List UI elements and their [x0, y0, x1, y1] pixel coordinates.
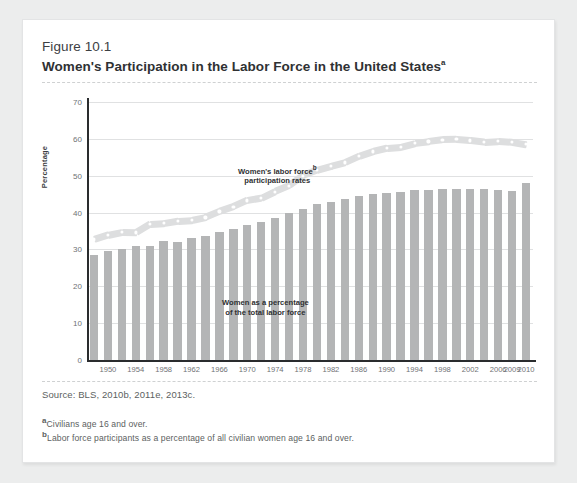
chart-bar: [424, 190, 432, 360]
chart-bar: [466, 189, 474, 360]
chart-bar: [159, 241, 167, 360]
line-series-marker: [524, 142, 527, 145]
annotation-line-row2: participation rates: [244, 176, 310, 185]
annotation-bar-row2: of the total labor force: [225, 308, 305, 317]
y-tick-label: 30: [73, 245, 82, 254]
annotation-bar-row1: Women as a percentage: [222, 298, 309, 307]
chart-bar: [508, 191, 516, 360]
chart-bar: [369, 194, 377, 360]
x-tick-label: 1990: [378, 365, 395, 374]
annotation-bar-series: Women as a percentage of the total labor…: [222, 298, 309, 317]
figure-title-superscript: a: [441, 58, 446, 67]
x-tick-label: 1994: [406, 365, 423, 374]
chart-plot-area: Percentage 010203040506070 Women's labor…: [42, 94, 537, 377]
gridline: [87, 102, 533, 103]
divider-top: [42, 82, 537, 83]
y-tick-label: 40: [73, 208, 82, 217]
chart-bar: [146, 246, 154, 360]
y-tick-label: 0: [78, 356, 82, 365]
x-tick-label: 1966: [211, 365, 228, 374]
footnote-a-text: Civilians age 16 and over.: [47, 419, 148, 429]
chart-bar: [243, 225, 251, 360]
figure-title: Women's Participation in the Labor Force…: [42, 58, 446, 74]
chart-bar: [438, 189, 446, 360]
source-note: Source: BLS, 2010b, 2011e, 2013c.: [42, 389, 195, 400]
chart-bar: [90, 255, 98, 360]
chart-bar: [452, 189, 460, 360]
x-tick-label: 1998: [434, 365, 451, 374]
chart-bar: [299, 209, 307, 360]
annotation-line-row1: Women's labor forceb: [238, 167, 317, 176]
chart-bar: [104, 251, 112, 360]
chart-bar: [382, 193, 390, 360]
chart-bar: [313, 204, 321, 360]
chart-bar: [494, 190, 502, 360]
divider-bottom: [42, 381, 537, 382]
y-tick-label: 10: [73, 319, 82, 328]
chart-gridbox: 010203040506070: [87, 102, 533, 360]
x-tick-label: 1978: [295, 365, 312, 374]
x-tick-label: 2002: [462, 365, 479, 374]
y-tick-label: 70: [73, 98, 82, 107]
chart-bar: [410, 190, 418, 360]
y-axis-line: [87, 98, 89, 360]
annotation-line-series: Women's labor forceb participation rates: [238, 164, 317, 186]
y-tick-label: 20: [73, 282, 82, 291]
x-tick-label: 1982: [322, 365, 339, 374]
chart-bar: [285, 213, 293, 360]
x-tick-label: 1954: [127, 365, 144, 374]
x-tick-label: 1970: [239, 365, 256, 374]
chart-bar: [215, 232, 223, 360]
x-tick-label: 1958: [155, 365, 172, 374]
chart-bar: [341, 199, 349, 360]
chart-bar: [355, 196, 363, 360]
chart-bar: [480, 189, 488, 360]
chart-bar: [271, 218, 279, 360]
chart-bar: [396, 192, 404, 360]
footnote-a: aCivilians age 16 and over.: [42, 416, 148, 429]
figure-title-text: Women's Participation in the Labor Force…: [42, 59, 441, 74]
footnote-b-text: Labor force participants as a percentage…: [47, 433, 354, 443]
figure-card: Figure 10.1 Women's Participation in the…: [22, 19, 555, 463]
chart-bar: [257, 222, 265, 360]
chart-bar: [229, 229, 237, 360]
footnote-b: bLabor force participants as a percentag…: [42, 430, 354, 443]
chart-bar: [201, 236, 209, 360]
chart-bar: [187, 238, 195, 360]
chart-bar: [118, 249, 126, 360]
x-tick-label: 1950: [99, 365, 116, 374]
x-tick-label: 1986: [350, 365, 367, 374]
figure-number: Figure 10.1: [42, 39, 111, 54]
y-axis-title: Percentage: [40, 122, 49, 212]
y-tick-label: 60: [73, 134, 82, 143]
chart-bar: [132, 246, 140, 360]
y-tick-label: 50: [73, 171, 82, 180]
chart-bar: [522, 183, 530, 360]
chart-bar: [327, 202, 335, 360]
x-tick-label: 1974: [267, 365, 284, 374]
x-tick-label: 1962: [183, 365, 200, 374]
x-tick-label: 2010: [518, 365, 535, 374]
chart-bar: [173, 242, 181, 360]
x-axis-line: [87, 360, 536, 362]
